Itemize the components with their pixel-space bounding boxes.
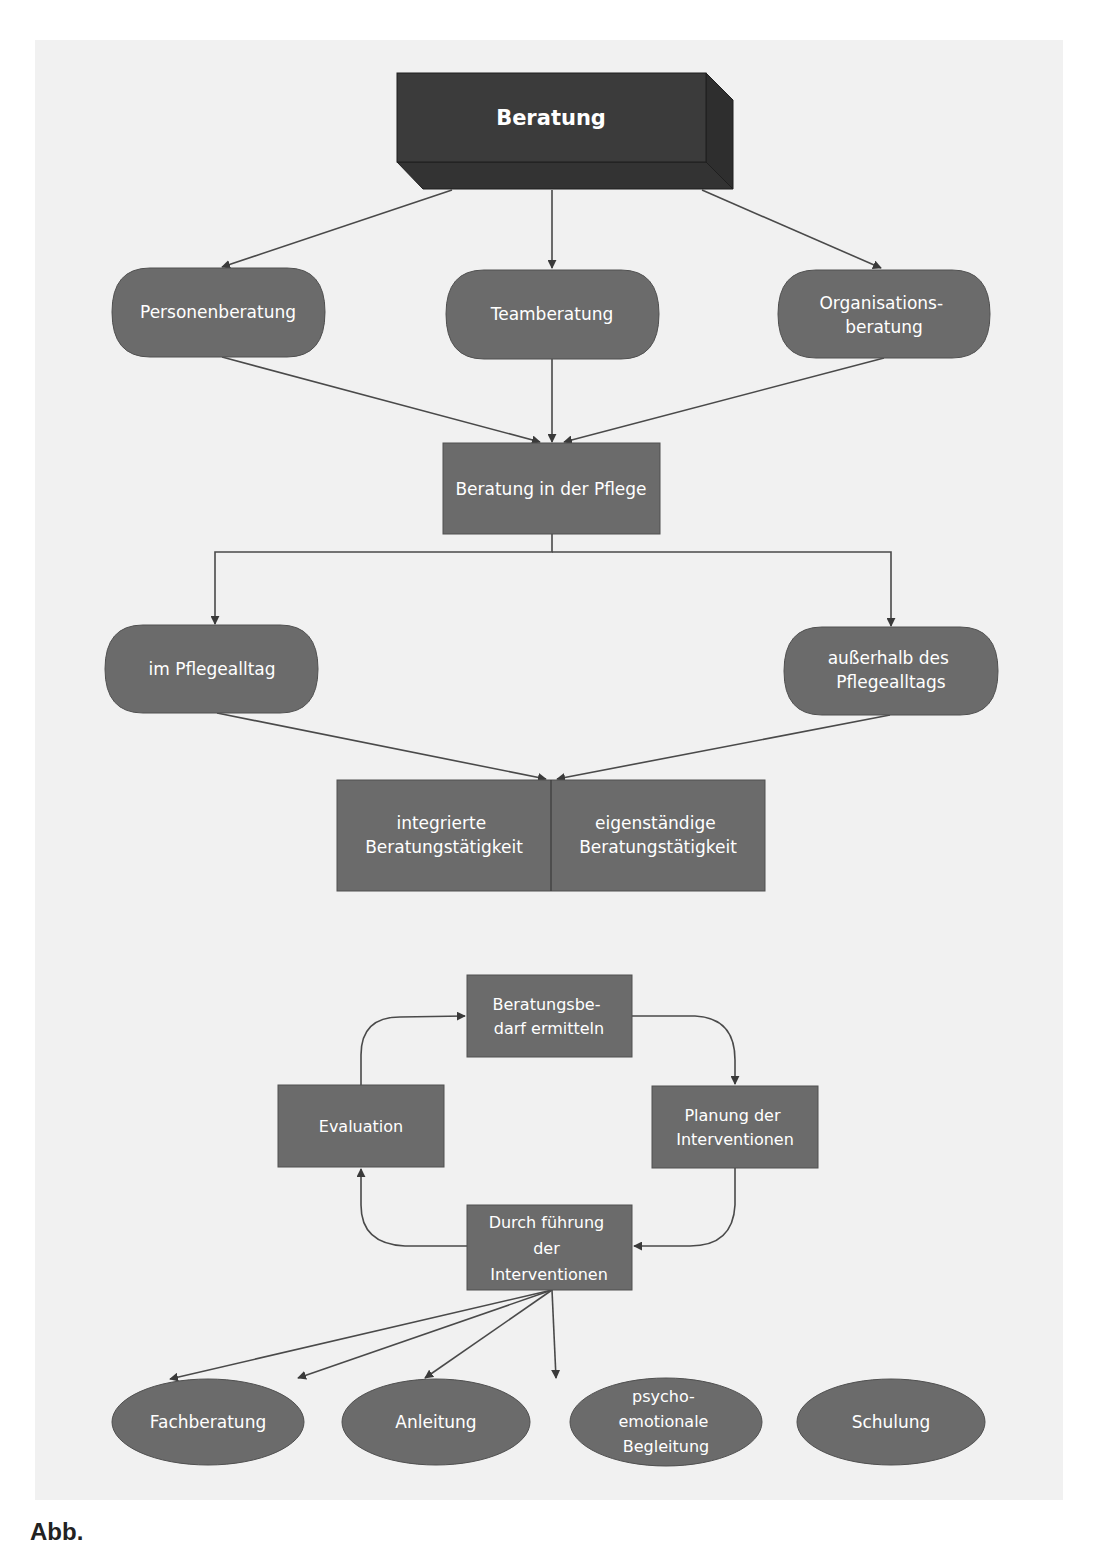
- node-evaluation: Evaluation: [278, 1085, 444, 1167]
- node-label: Evaluation: [319, 1117, 403, 1136]
- svg-text:Anleitung: Anleitung: [395, 1412, 476, 1432]
- node-label-line: eigenständige: [595, 813, 716, 833]
- edge-personen-pflege: [222, 357, 540, 442]
- node-label: Personenberatung: [140, 302, 296, 322]
- node-label-line: beratung: [845, 317, 923, 337]
- edge-ausserhalb-taetigkeit: [557, 715, 890, 779]
- svg-text:Beratung in der Pflege: Beratung in der Pflege: [455, 479, 646, 499]
- node-label-line: Beratungsbe-: [492, 995, 600, 1014]
- node-label-line: außerhalb des: [828, 648, 949, 668]
- svg-text:im Pflegealltag: im Pflegealltag: [148, 659, 275, 679]
- node-label-line: Begleitung: [623, 1437, 709, 1456]
- node-beratung-in-der-pflege: Beratung in der Pflege: [443, 443, 660, 534]
- node-label: Fachberatung: [150, 1412, 266, 1432]
- edge-durch-schulung: [552, 1290, 556, 1378]
- node-label: Beratung in der Pflege: [455, 479, 646, 499]
- node-teamberatung: Teamberatung: [446, 270, 659, 359]
- svg-text:Schulung: Schulung: [852, 1412, 931, 1432]
- node-label-line: Planung der: [684, 1106, 781, 1125]
- svg-text:psycho- emotionale: psycho- emotionale Begleitung: [618, 1387, 713, 1456]
- edge-pflege-alltag: [215, 534, 552, 624]
- edge-evaluation-bedarf: [361, 1016, 465, 1085]
- node-organisationsberatung: Organisations- beratung: [778, 270, 990, 358]
- figure-caption-clipped: Abb.: [30, 1518, 83, 1544]
- node-psycho-emotionale-begleitung: psycho- emotionale Begleitung: [570, 1378, 762, 1466]
- node-fachberatung: Fachberatung: [112, 1379, 304, 1465]
- root-block-bottom-face: [397, 162, 733, 189]
- node-label-line: Beratungstätigkeit: [365, 837, 523, 857]
- node-label-line: Beratungstätigkeit: [579, 837, 737, 857]
- edge-root-personen: [222, 190, 452, 267]
- node-label-line: emotionale: [618, 1412, 708, 1431]
- node-label-line: Interventionen: [676, 1130, 794, 1149]
- node-label-line: Durch führung: [489, 1213, 605, 1232]
- node-personenberatung: Personenberatung: [112, 268, 325, 357]
- node-label-line: integrierte: [396, 813, 486, 833]
- edge-root-organisation: [702, 190, 881, 268]
- svg-text:Teamberatung: Teamberatung: [490, 304, 614, 324]
- node-im-pflegealltag: im Pflegealltag: [105, 625, 318, 713]
- node-label: Anleitung: [395, 1412, 476, 1432]
- node-planung-der-interventionen: Planung der Interventionen: [652, 1086, 818, 1168]
- edge-pflege-ausserhalb: [552, 552, 891, 626]
- root-node-beratung: Beratung: [397, 73, 733, 189]
- node-beratungsbedarf-ermitteln: Beratungsbe- darf ermitteln: [467, 975, 632, 1057]
- edge-planung-durchfuehrung: [634, 1168, 735, 1246]
- node-label-line: der: [533, 1239, 560, 1258]
- edge-alltag-taetigkeit: [217, 713, 546, 779]
- node-label: Teamberatung: [490, 304, 614, 324]
- node-label: im Pflegealltag: [148, 659, 275, 679]
- edge-bedarf-planung: [632, 1016, 735, 1084]
- node-beratungstaetigkeit-split: integrierte Beratungstätigkeit eigenstän…: [337, 780, 765, 891]
- svg-text:Personenberatung: Personenberatung: [140, 302, 296, 322]
- node-durchfuehrung-der-interventionen: Durch führung der Interventionen: [467, 1205, 632, 1290]
- node-schulung: Schulung: [797, 1379, 985, 1465]
- node-label-line: Organisations-: [819, 293, 943, 313]
- svg-text:Fachberatung: Fachberatung: [150, 1412, 266, 1432]
- edge-durch-anleitung: [298, 1290, 552, 1378]
- edge-durchfuehrung-evaluation: [361, 1169, 467, 1246]
- root-label: Beratung: [496, 106, 606, 130]
- edge-durch-fachberatung: [170, 1290, 552, 1379]
- node-anleitung: Anleitung: [342, 1379, 530, 1465]
- node-label: Schulung: [852, 1412, 931, 1432]
- node-label-line: Interventionen: [490, 1265, 608, 1284]
- node-label-line: psycho-: [632, 1387, 695, 1406]
- node-ausserhalb-des-pflegealltags: außerhalb des Pflegealltags: [784, 627, 998, 715]
- edge-organisation-pflege: [564, 358, 884, 442]
- edge-durch-psycho: [425, 1290, 552, 1378]
- node-label-line: Pflegealltags: [836, 672, 945, 692]
- svg-text:Evaluation: Evaluation: [319, 1117, 403, 1136]
- node-label-line: darf ermitteln: [494, 1019, 604, 1038]
